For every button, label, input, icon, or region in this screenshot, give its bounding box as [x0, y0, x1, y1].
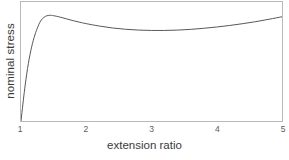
x-tick-label: 3	[142, 124, 162, 134]
x-tick-label: 5	[273, 124, 289, 134]
chart-figure: nominal stress 12345 extension ratio	[0, 0, 289, 160]
x-tick-label: 4	[207, 124, 227, 134]
y-axis-label: nominal stress	[0, 0, 20, 122]
x-tick-label: 2	[76, 124, 96, 134]
curve-canvas	[21, 2, 282, 121]
x-axis-label: extension ratio	[0, 139, 289, 151]
x-axis-label-text: extension ratio	[107, 139, 182, 151]
plot-area	[20, 1, 283, 122]
x-axis-tick-labels: 12345	[0, 124, 289, 138]
nominal-stress-curve	[21, 15, 282, 121]
x-tick-label: 1	[10, 124, 30, 134]
y-axis-label-text: nominal stress	[4, 23, 16, 99]
